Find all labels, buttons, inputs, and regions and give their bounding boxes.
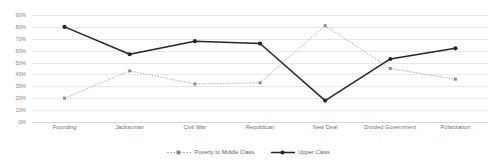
legend-swatch-dotted-icon	[167, 149, 191, 156]
x-tick-label: Civil War	[184, 124, 207, 130]
series-line	[65, 26, 456, 99]
x-axis: FoundingJacksonianCivil WarRepublicanNew…	[32, 124, 488, 138]
legend-label: Upper Class	[298, 149, 329, 155]
legend-item-upper-class[interactable]: Upper Class	[271, 149, 329, 156]
data-point[interactable]	[389, 67, 392, 70]
data-point[interactable]	[323, 99, 327, 103]
data-point[interactable]	[388, 57, 392, 61]
x-tick-label: Founding	[53, 124, 77, 130]
x-tick-label: New Deal	[313, 124, 338, 130]
x-tick-label: Divided Government	[364, 124, 416, 130]
line-chart: 90%80%70%60%50%40%30%20%10%0% FoundingJa…	[0, 0, 497, 160]
x-tick-label: Republican	[246, 124, 275, 130]
series-poverty-to-middle-class	[63, 24, 457, 100]
legend-swatch-solid-icon	[271, 149, 295, 156]
x-tick-label: Polarization	[441, 124, 471, 130]
data-point[interactable]	[453, 46, 457, 50]
chart-legend: Poverty to Middle Class Upper Class	[0, 145, 497, 159]
x-tick-label: Jacksonian	[115, 124, 144, 130]
data-point[interactable]	[128, 52, 132, 56]
legend-item-poverty-to-middle-class[interactable]: Poverty to Middle Class	[167, 149, 254, 156]
data-point[interactable]	[128, 69, 131, 72]
data-point[interactable]	[259, 81, 262, 84]
series-line	[65, 27, 456, 101]
data-point[interactable]	[193, 82, 196, 85]
data-point[interactable]	[324, 24, 327, 27]
data-point[interactable]	[193, 39, 197, 43]
data-point[interactable]	[454, 78, 457, 81]
legend-label: Poverty to Middle Class	[194, 149, 254, 155]
data-point[interactable]	[63, 97, 66, 100]
series-upper-class	[62, 25, 457, 103]
data-point[interactable]	[258, 41, 262, 45]
data-point[interactable]	[62, 25, 66, 29]
